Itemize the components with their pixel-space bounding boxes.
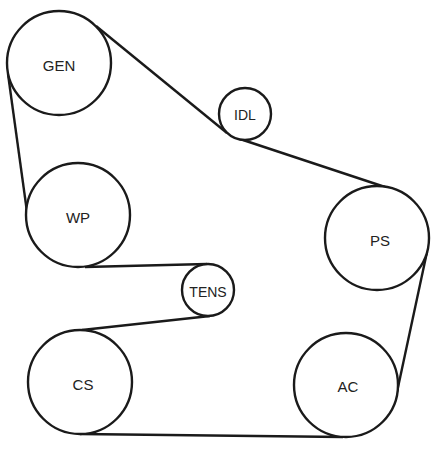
pulley-idl: IDL <box>219 88 271 140</box>
belt-routing-diagram: GEN IDL PS AC CS TENS WP <box>0 0 433 449</box>
pulley-wp-label: WP <box>66 209 90 226</box>
pulley-tens: TENS <box>182 264 234 316</box>
pulley-cs: CS <box>28 330 132 434</box>
pulley-idl-label: IDL <box>234 107 256 123</box>
belt-segment-tens-wp <box>85 264 207 267</box>
pulley-ps-label: PS <box>370 232 390 249</box>
pulley-tens-label: TENS <box>189 284 226 300</box>
pulley-cs-label: CS <box>73 376 94 393</box>
pulley-ps: PS <box>325 186 429 290</box>
belt-segment-ac-cs <box>80 434 343 437</box>
pulley-ac-label: AC <box>338 378 359 395</box>
pulley-gen: GEN <box>7 11 111 115</box>
pulley-gen-label: GEN <box>43 57 76 74</box>
pulley-ac: AC <box>294 333 398 437</box>
belt-segment-idl-ps <box>240 139 385 187</box>
pulley-wp: WP <box>26 163 130 267</box>
belt-segment-gen-idl <box>96 26 227 133</box>
belt-segment-cs-tens <box>82 316 210 330</box>
